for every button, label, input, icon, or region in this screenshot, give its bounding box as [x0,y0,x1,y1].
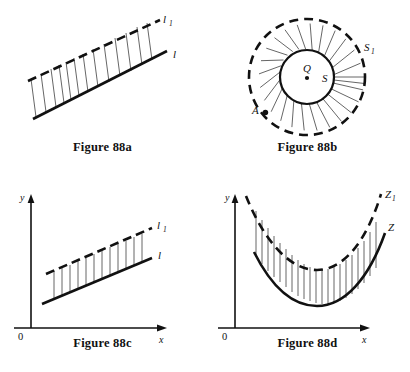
x-axis-arrow-88d [360,324,370,331]
label-S1-subscript-88b: 1 [371,47,375,56]
caption-88d: Figure 88d [205,336,410,351]
figure-88b: Q S S 1 A Figure 88b [205,0,410,186]
label-Z1-subscript-88d: 1 [392,194,396,203]
connector-segments-88d [256,211,376,304]
label-l-88c: l [158,249,161,261]
figure-plate: l 1 l Figure 88a [0,0,410,372]
y-axis-label-88c: y [19,192,25,203]
figure-88d: y x 0 Z 1 Z Figure 88d [205,186,410,372]
label-S1-88b: S [364,41,370,53]
figure-88b-drawing: Q S S 1 A [205,0,410,186]
x-axis-arrow-88c [157,324,167,331]
label-l1-88c: l [157,219,160,231]
figure-88a: l 1 l Figure 88a [0,0,205,186]
solid-line-l-88c [42,258,152,304]
center-point-dot-88b [305,76,309,80]
label-A-88b: A [251,104,259,116]
label-l1-subscript-88c: 1 [163,225,167,234]
label-l1-subscript-88a: 1 [169,19,173,28]
caption-88a: Figure 88a [0,140,205,155]
label-l1-88a: l [163,13,166,25]
label-S-88b: S [322,72,328,84]
label-Q-88b: Q [303,62,311,74]
dashed-curve-Z1-88d [246,194,381,270]
boundary-point-A-dot-88b [263,110,269,116]
y-axis-label-88d: y [224,192,230,203]
y-axis-arrow-88c [28,194,35,203]
dashed-line-l1-88c [46,228,152,274]
figure-88a-drawing: l 1 l [0,0,205,186]
label-l-88a: l [173,48,176,60]
caption-88b: Figure 88b [205,140,410,155]
label-Z-88d: Z [388,221,395,233]
y-axis-arrow-88d [232,194,239,203]
label-Z1-88d: Z [385,188,392,200]
connector-segments-88a [31,23,152,117]
caption-88c: Figure 88c [0,336,205,351]
figure-88c: y x 0 l 1 l Figure 88c [0,186,205,372]
